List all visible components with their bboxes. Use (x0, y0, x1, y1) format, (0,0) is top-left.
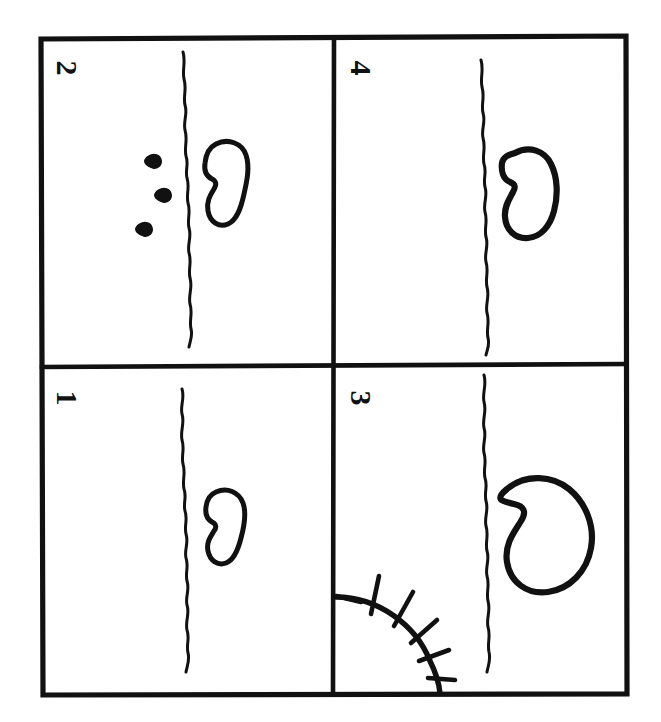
water-droplet-icon-3 (136, 223, 152, 237)
panel-2-number: 2 (51, 61, 84, 76)
sketch-canvas: 2 4 1 3 (0, 0, 661, 722)
panel-1-number: 1 (51, 391, 84, 406)
panel-1[interactable]: 1 (44, 370, 331, 692)
panel-4[interactable]: 4 (337, 41, 623, 364)
water-droplet-icon-1 (145, 155, 161, 169)
panel-3-number: 3 (345, 391, 378, 406)
water-droplet-icon-2 (155, 189, 171, 203)
panel-2[interactable]: 2 (44, 41, 331, 364)
panel-3-hit-area[interactable] (337, 370, 623, 692)
sketch-drawing: 2 4 1 3 (0, 0, 661, 722)
sun-ray-5 (428, 678, 455, 680)
panel-4-hit-area[interactable] (337, 41, 623, 364)
horizontal-divider (42, 364, 626, 367)
panel-3[interactable]: 3 (336, 370, 623, 693)
panel-4-number: 4 (345, 61, 378, 76)
